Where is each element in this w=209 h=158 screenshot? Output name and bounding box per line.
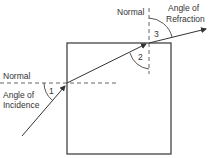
angle-2-label: 2 (138, 52, 143, 62)
glass-block (67, 43, 171, 154)
angle-3-label: 3 (154, 29, 159, 39)
normal-label-left: Normal (3, 71, 31, 81)
normal-label-top: Normal (117, 7, 145, 17)
angle-of-incidence-label-line2: Incidence (3, 100, 40, 110)
angle-of-refraction-label-line2: Refraction (166, 14, 205, 24)
refracted-ray-inside (67, 44, 146, 83)
angle-1-label: 1 (49, 86, 54, 96)
angle-of-incidence-label-line1: Angle of (3, 90, 35, 100)
refraction-diagram: 1 2 3 Normal Angle of Incidence Normal A… (0, 0, 209, 158)
angle-of-refraction-label-line1: Angle of (168, 3, 200, 13)
